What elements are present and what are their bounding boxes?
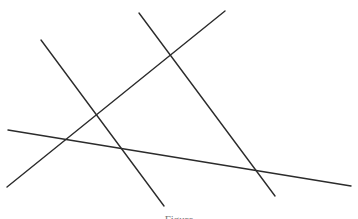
line-a: [41, 40, 164, 206]
figure-caption: Figure: [0, 212, 358, 219]
line-c: [139, 13, 275, 196]
lines-group: [7, 11, 351, 206]
figure-caption-text: Figure: [165, 213, 194, 219]
line-arrangement-diagram: [0, 0, 358, 219]
line-d: [8, 130, 351, 186]
